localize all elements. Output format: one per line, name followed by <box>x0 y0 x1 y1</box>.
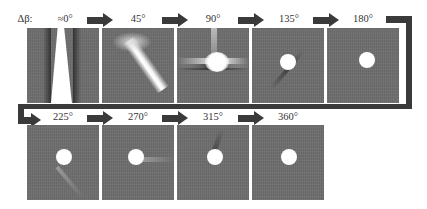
bright-spot <box>128 149 144 165</box>
bright-spot <box>56 149 72 165</box>
simulation-panel <box>327 28 399 103</box>
arrow-right-icon <box>238 115 255 122</box>
bright-spot <box>281 149 297 165</box>
angle-label: 225° <box>43 111 83 123</box>
arrow-right-icon <box>87 17 104 24</box>
bright-spot <box>207 149 223 165</box>
bright-spot <box>205 52 229 72</box>
bright-spot <box>280 54 296 70</box>
angle-label: 315° <box>193 111 233 123</box>
simulation-panel <box>27 125 99 200</box>
bright-spot <box>359 52 375 68</box>
arrow-right-icon <box>87 115 104 122</box>
delta-beta-label: Δβ: <box>10 13 40 25</box>
arrow-right-icon <box>238 17 255 24</box>
arrow-right-icon <box>313 17 330 24</box>
angle-label: 135° <box>269 13 309 25</box>
angle-label: ≈0° <box>45 13 85 25</box>
angle-label: 180° <box>343 13 383 25</box>
arrow-right-icon <box>18 117 32 124</box>
connector-bracket <box>406 16 412 108</box>
arrow-right-icon <box>162 17 179 24</box>
simulation-panel <box>177 125 249 200</box>
connector-bracket <box>18 104 412 109</box>
angle-label: 45° <box>118 13 158 25</box>
simulation-panel <box>27 28 99 103</box>
simulation-panel <box>102 28 174 103</box>
angle-label: 90° <box>193 13 233 25</box>
simulation-panel <box>177 28 249 103</box>
arrow-right-icon <box>162 115 179 122</box>
angle-label: 360° <box>268 111 308 123</box>
simulation-panel <box>102 125 174 200</box>
simulation-panel <box>252 28 324 103</box>
angle-label: 270° <box>118 111 158 123</box>
simulation-panel <box>252 125 324 200</box>
